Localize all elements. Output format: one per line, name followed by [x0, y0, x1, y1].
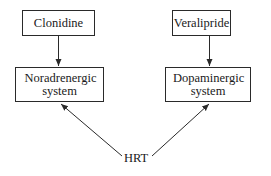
arrow-hrt-to-noradrenergic [61, 104, 122, 156]
noradrenergic-system-label: Noradrenergic system [25, 72, 95, 98]
clonidine-label: Clonidine [34, 17, 83, 30]
noradrenergic-system-box: Noradrenergic system [15, 67, 104, 102]
veralipride-label: Veralipride [174, 17, 230, 30]
veralipride-box: Veralipride [172, 10, 231, 36]
hrt-label: HRT [124, 151, 148, 166]
dopaminergic-system-box: Dopaminergic system [165, 67, 251, 102]
clonidine-box: Clonidine [22, 10, 95, 36]
dopaminergic-system-label: Dopaminergic system [173, 72, 243, 98]
arrow-hrt-to-dopaminergic [152, 104, 209, 156]
